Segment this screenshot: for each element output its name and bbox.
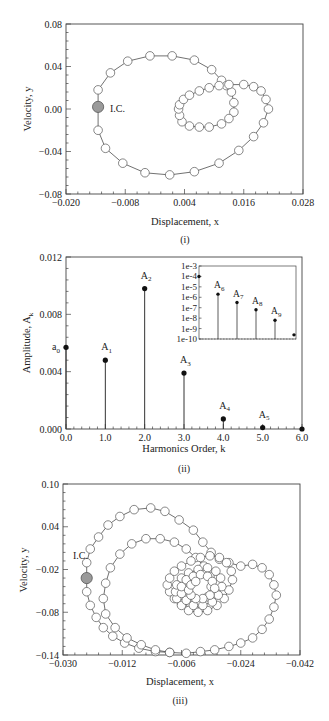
panel-ii-y-axis-label: Amplitude, Ak <box>21 312 35 373</box>
trajectory-marker <box>203 563 212 572</box>
panel-iii-y-tick-labels: 0.100.04−0.02−0.08−0.14 <box>36 479 59 661</box>
trajectory-marker <box>165 171 174 180</box>
x-tick-label: −0.012 <box>108 658 136 669</box>
inset-harmonic-label: A7 <box>233 289 244 302</box>
inset-stem-point <box>235 301 238 304</box>
trajectory-marker <box>196 553 205 562</box>
trajectory-marker <box>182 649 191 658</box>
trajectory-marker <box>146 52 155 61</box>
trajectory-marker <box>228 575 237 584</box>
trajectory-marker <box>182 545 191 554</box>
trajectory-marker <box>249 132 258 141</box>
trajectory-marker <box>106 563 115 572</box>
x-tick-label: 0.028 <box>292 197 315 208</box>
harmonic-label: A3 <box>180 354 191 368</box>
trajectory-marker <box>123 57 132 66</box>
inset-harmonic-labels: A6A7A8A9 <box>214 280 282 319</box>
inset-y-tick-label: 1e-4 <box>181 271 197 281</box>
panel-i-x-axis-label: Displacement, x <box>151 216 220 227</box>
trajectory-marker <box>225 642 234 651</box>
trajectory-marker <box>146 504 155 513</box>
trajectory-marker <box>168 52 177 61</box>
x-tick-label: 3.0 <box>178 432 191 443</box>
trajectory-marker <box>217 120 226 129</box>
inset-y-tick-label: 1e-9 <box>181 324 197 334</box>
trajectory-marker <box>265 615 274 624</box>
inset-y-tick-label: 1e-10 <box>177 334 198 344</box>
trajectory-marker <box>215 159 224 168</box>
trajectory-marker <box>195 123 204 132</box>
trajectory-marker <box>248 560 257 569</box>
stem-point <box>142 286 147 291</box>
trajectory-marker <box>170 538 179 547</box>
trajectory-marker <box>206 552 215 561</box>
initial-condition-marker <box>92 101 103 112</box>
stem-point <box>181 371 186 376</box>
trajectory-marker <box>227 567 236 576</box>
stem-point <box>63 345 68 350</box>
panel-iii-caption: (iii) <box>173 695 188 707</box>
inset-plot-area <box>199 266 296 339</box>
trajectory-marker <box>116 550 125 559</box>
trajectory-marker <box>264 105 273 114</box>
trajectory-marker <box>215 81 224 90</box>
trajectory-marker <box>262 95 271 104</box>
trajectory-marker <box>259 119 268 128</box>
y-tick-label: 0.08 <box>45 19 63 30</box>
inset-stem-point <box>273 319 276 322</box>
trajectory-marker <box>161 507 170 516</box>
trajectory-marker <box>104 521 113 530</box>
inset-stem-point <box>216 292 219 295</box>
x-tick-label: −0.024 <box>227 658 255 669</box>
trajectory-marker <box>101 579 110 588</box>
trajectory-marker <box>216 574 225 583</box>
inset-stem-point <box>292 333 295 336</box>
y-tick-label: −0.04 <box>39 146 62 157</box>
inset-stems <box>197 275 295 339</box>
trajectory-marker <box>199 538 208 547</box>
trajectory-marker <box>230 98 239 107</box>
inset-harmonic-label: A6 <box>214 280 225 293</box>
inset-y-tick-label: 1e-3 <box>181 261 197 271</box>
trajectory-marker <box>189 526 198 535</box>
panel-i-ic-annotation: I.C. <box>110 103 125 114</box>
x-tick-label: 4.0 <box>217 432 230 443</box>
trajectory-marker <box>270 581 279 590</box>
trajectory-marker <box>177 562 186 571</box>
x-tick-label: −0.042 <box>286 658 314 669</box>
trajectory-marker <box>205 123 214 132</box>
trajectory-marker <box>123 634 132 643</box>
inset-harmonic-label: A9 <box>271 306 282 319</box>
x-tick-label: −0.008 <box>111 197 139 208</box>
trajectory-marker <box>92 613 101 622</box>
y-tick-label: 0.04 <box>45 61 63 72</box>
stem-point <box>221 416 226 421</box>
trajectory-marker <box>142 534 151 543</box>
panel-ii-stem-plot: 0.0120.0080.0040.000 0.01.02.03.04.05.06… <box>21 252 308 476</box>
inset-y-tick-label: 1e-5 <box>181 282 197 292</box>
trajectory-marker <box>118 159 127 168</box>
trajectory-marker <box>94 86 103 95</box>
panel-i-caption: (i) <box>180 234 189 246</box>
trajectory-marker <box>101 144 110 153</box>
panel-ii-y-axis-label-text: Amplitude, Ak <box>21 312 35 373</box>
inset-stem-point <box>254 308 257 311</box>
trajectory-marker <box>195 87 204 96</box>
trajectory-marker <box>265 570 274 579</box>
trajectory-marker <box>236 639 245 648</box>
trajectory-marker <box>272 591 281 600</box>
trajectory-marker <box>175 516 184 525</box>
trajectory-marker <box>156 534 165 543</box>
trajectory-marker <box>141 168 150 177</box>
panel-ii-y-tick-labels: 0.0120.0080.0040.000 <box>40 252 63 435</box>
trajectory-marker <box>191 577 200 586</box>
y-tick-label: −0.02 <box>36 564 59 575</box>
trajectory-marker <box>127 540 136 549</box>
x-tick-label: −0.006 <box>167 658 195 669</box>
stem-point <box>103 358 108 363</box>
trajectory-marker <box>257 87 266 96</box>
x-tick-label: 0.0 <box>60 432 73 443</box>
inset-y-tick-labels: 1e-31e-41e-51e-61e-71e-81e-91e-10 <box>177 261 202 344</box>
trajectory-marker <box>222 558 231 567</box>
x-tick-label: 1.0 <box>99 432 112 443</box>
